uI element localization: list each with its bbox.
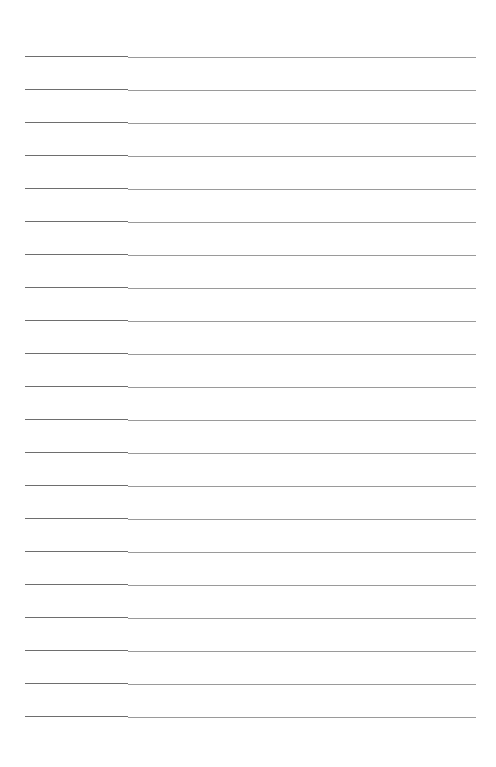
form-line [25,683,476,685]
form-line [25,287,476,289]
entry-column-line [128,255,476,256]
form-line [25,584,476,586]
label-column-line [25,584,128,585]
entry-column-line [128,222,476,223]
entry-column-line [128,156,476,157]
form-line [25,551,476,553]
label-column-line [25,452,128,453]
entry-column-line [128,321,476,322]
label-column-line [25,551,128,552]
form-line [25,155,476,157]
label-column-line [25,320,128,321]
entry-column-line [128,717,476,718]
form-line [25,716,476,718]
form-line [25,617,476,619]
form-line [25,452,476,454]
entry-column-line [128,57,476,58]
label-column-line [25,485,128,486]
label-column-line [25,155,128,156]
entry-column-line [128,420,476,421]
label-column-line [25,56,128,57]
form-line [25,386,476,388]
entry-column-line [128,618,476,619]
label-column-line [25,683,128,684]
label-column-line [25,287,128,288]
label-column-line [25,89,128,90]
entry-column-line [128,519,476,520]
label-column-line [25,122,128,123]
form-line [25,254,476,256]
label-column-line [25,518,128,519]
label-column-line [25,353,128,354]
entry-column-line [128,90,476,91]
label-column-line [25,221,128,222]
form-line [25,320,476,322]
entry-column-line [128,123,476,124]
entry-column-line [128,453,476,454]
entry-column-line [128,585,476,586]
form-line [25,650,476,652]
form-line [25,122,476,124]
form-line [25,485,476,487]
entry-column-line [128,684,476,685]
label-column-line [25,650,128,651]
label-column-line [25,188,128,189]
entry-column-line [128,486,476,487]
entry-column-line [128,651,476,652]
entry-column-line [128,552,476,553]
entry-column-line [128,288,476,289]
form-line [25,353,476,355]
label-column-line [25,617,128,618]
entry-column-line [128,189,476,190]
form-line [25,188,476,190]
entry-column-line [128,354,476,355]
label-column-line [25,419,128,420]
entry-column-line [128,387,476,388]
form-line [25,89,476,91]
form-line [25,56,476,58]
form-line [25,518,476,520]
label-column-line [25,386,128,387]
label-column-line [25,254,128,255]
form-line [25,419,476,421]
label-column-line [25,716,128,717]
form-line [25,221,476,223]
